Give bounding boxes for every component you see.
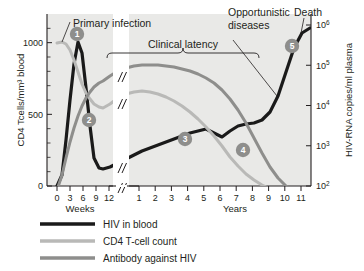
y-tick-right: 106 [316, 19, 330, 31]
x-axis-label-years: Years [223, 203, 247, 214]
legend-label: HIV in blood [103, 219, 157, 230]
chart-marker-number: 5 [290, 41, 295, 51]
y-tick-left: 500 [28, 110, 43, 120]
chart-marker-number: 3 [183, 134, 188, 144]
chart-marker: 4 [236, 143, 250, 157]
y-axis-right-label: HIV-RNA copies/ml plasma [343, 42, 354, 157]
x-axis-ticks: 0369121234567891011 [54, 186, 305, 203]
annotation-clinical-latency: Clinical latency [148, 38, 219, 50]
legend-item: CD4 T-cell count [40, 236, 177, 247]
x-tick-year: 5 [201, 193, 206, 203]
axis-break-gap [113, 14, 129, 186]
chart-canvas: 05001000 102103104105106 036912123456789… [0, 0, 364, 271]
legend-label: Antibody against HIV [103, 253, 197, 264]
chart-marker-number: 2 [87, 115, 92, 125]
x-tick-week: 3 [67, 193, 72, 203]
legend-item: HIV in blood [40, 219, 157, 230]
x-tick-year: 10 [280, 193, 290, 203]
y-tick-right: 103 [316, 140, 330, 152]
y-tick-left: 1000 [23, 38, 43, 48]
x-tick-week: 6 [80, 193, 85, 203]
x-tick-year: 1 [136, 193, 141, 203]
legend-item: Antibody against HIV [40, 253, 197, 264]
x-tick-week: 0 [54, 193, 59, 203]
y-tick-right: 105 [316, 59, 330, 71]
x-tick-year: 7 [234, 193, 239, 203]
x-tick-year: 3 [169, 193, 174, 203]
x-axis-label-weeks: Weeks [66, 203, 95, 214]
x-tick-year: 8 [250, 193, 255, 203]
y-tick-left: 0 [38, 181, 43, 191]
legend-label: CD4 T-cell count [103, 236, 177, 247]
x-tick-year: 9 [266, 193, 271, 203]
y-tick-right: 104 [316, 99, 330, 111]
x-tick-year: 4 [185, 193, 190, 203]
y-axis-left-label: CD4 Tcells/mm³ blood [15, 54, 26, 147]
x-tick-year: 2 [153, 193, 158, 203]
hiv-progression-chart: 05001000 102103104105106 036912123456789… [0, 0, 364, 271]
annotation-primary-infection: Primary infection [73, 17, 151, 29]
chart-marker: 2 [82, 113, 96, 127]
annotation-opportunistic-diseases-line2: diseases [228, 19, 269, 31]
chart-marker: 5 [285, 39, 299, 53]
annotation-death: Death [294, 6, 322, 18]
x-tick-year: 6 [217, 193, 222, 203]
chart-legend: HIV in bloodCD4 T-cell countAntibody aga… [40, 219, 197, 264]
x-tick-year: 11 [296, 193, 305, 203]
chart-marker: 3 [178, 132, 192, 146]
x-tick-week: 9 [93, 193, 98, 203]
y-tick-right: 102 [316, 180, 330, 192]
chart-marker-number: 1 [75, 29, 80, 39]
x-tick-week: 12 [104, 193, 114, 203]
annotation-opportunistic-diseases-line1: Opportunistic [228, 6, 290, 18]
chart-marker-number: 4 [241, 145, 246, 155]
